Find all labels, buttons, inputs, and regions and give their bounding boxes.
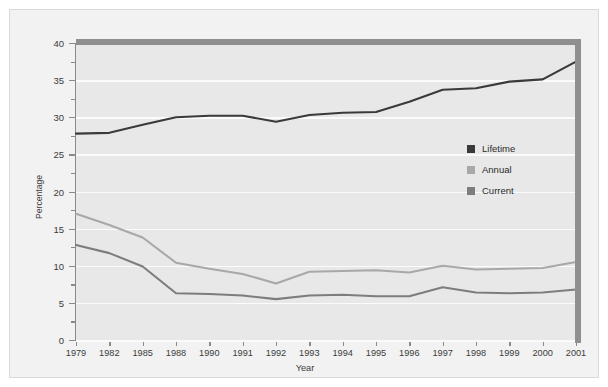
x-axis-tick-label: 1992: [266, 348, 286, 358]
legend-swatch-icon: [467, 166, 475, 174]
chart-legend: LifetimeAnnualCurrent: [467, 138, 552, 201]
x-axis-tick-mark: [76, 341, 77, 346]
y-axis-tick-mark: [69, 229, 75, 230]
y-axis-minor-tick-mark: [71, 321, 75, 322]
x-axis-tick-label: 1995: [366, 348, 386, 358]
y-axis-tick-mark: [69, 192, 75, 193]
legend-item: Current: [467, 180, 552, 201]
x-axis-tick-mark: [109, 341, 110, 346]
x-axis-tick-label: 1990: [199, 348, 219, 358]
y-axis-tick-mark: [69, 154, 75, 155]
x-axis-tick-mark: [443, 341, 444, 346]
y-axis-title: Percentage: [34, 162, 44, 232]
y-axis-tick-label: 10: [24, 260, 64, 271]
legend-item: Lifetime: [467, 138, 552, 159]
legend-label: Annual: [482, 164, 512, 175]
x-axis-tick-label: 1994: [332, 348, 352, 358]
x-axis-tick-label: 1993: [299, 348, 319, 358]
x-axis-tick-label: 2001: [566, 348, 586, 358]
y-axis-minor-tick-mark: [71, 173, 75, 174]
x-axis-tick-mark: [276, 341, 277, 346]
y-axis-tick-label: 40: [24, 38, 64, 49]
y-axis-tick-label: 35: [24, 75, 64, 86]
y-axis-tick-label: 0: [24, 335, 64, 346]
y-axis-minor-tick-mark: [71, 136, 75, 137]
y-axis-tick-mark: [69, 340, 75, 341]
x-axis-tick-label: 1988: [166, 348, 186, 358]
y-axis-tick-mark: [69, 43, 75, 44]
x-axis-tick-mark: [376, 341, 377, 346]
x-axis-tick-label: 1997: [432, 348, 452, 358]
x-axis-title: Year: [10, 363, 600, 373]
y-axis-tick-mark: [69, 117, 75, 118]
y-axis-minor-tick-mark: [71, 99, 75, 100]
y-axis-minor-tick-mark: [71, 62, 75, 63]
y-axis-tick-mark: [69, 266, 75, 267]
plot-frame-top: [76, 39, 581, 45]
x-axis-tick-label: 2000: [532, 348, 552, 358]
x-axis-tick-label: 1982: [99, 348, 119, 358]
x-axis-tick-mark: [509, 341, 510, 346]
x-axis-tick-mark: [476, 341, 477, 346]
y-axis-tick-label: 30: [24, 112, 64, 123]
y-axis-tick-label: 15: [24, 223, 64, 234]
x-axis-tick-mark: [176, 341, 177, 346]
plot-frame-right: [575, 39, 581, 343]
x-axis-tick-mark: [409, 341, 410, 346]
y-axis-tick-label: 20: [24, 186, 64, 197]
x-axis-tick-label: 1991: [232, 348, 252, 358]
x-axis-tick-label: 1985: [132, 348, 152, 358]
x-axis-tick-label: 1999: [499, 348, 519, 358]
legend-item: Annual: [467, 159, 552, 180]
x-axis-tick-mark: [143, 341, 144, 346]
series-line: [76, 62, 576, 134]
y-axis-minor-tick-mark: [71, 247, 75, 248]
x-axis-tick-mark: [543, 341, 544, 346]
legend-label: Lifetime: [482, 143, 515, 154]
gridline: [76, 340, 576, 342]
legend-label: Current: [482, 185, 514, 196]
y-axis-minor-tick-mark: [71, 210, 75, 211]
x-axis-tick-mark: [309, 341, 310, 346]
y-axis-minor-tick-mark: [71, 284, 75, 285]
chart-figure: Percentage Year 0510152025303540 1979198…: [9, 9, 599, 378]
y-axis-tick-label: 5: [24, 297, 64, 308]
x-axis-tick-label: 1996: [399, 348, 419, 358]
x-axis-tick-mark: [209, 341, 210, 346]
legend-swatch-icon: [467, 145, 475, 153]
x-axis-tick-mark: [343, 341, 344, 346]
x-axis-tick-label: 1998: [466, 348, 486, 358]
y-axis-tick-label: 25: [24, 149, 64, 160]
x-axis-tick-label: 1979: [66, 348, 86, 358]
y-axis-tick-mark: [69, 303, 75, 304]
y-axis-tick-mark: [69, 80, 75, 81]
legend-swatch-icon: [467, 187, 475, 195]
x-axis-tick-mark: [243, 341, 244, 346]
